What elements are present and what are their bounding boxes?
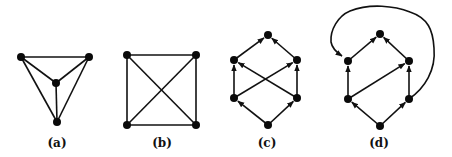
directed-edge: [238, 101, 268, 125]
vertex: [344, 57, 352, 65]
vertex: [192, 51, 200, 59]
vertex: [264, 121, 272, 129]
vertex: [376, 122, 384, 130]
vertex: [53, 118, 61, 126]
panel-label: (a): [47, 136, 66, 150]
vertex: [230, 56, 238, 64]
vertex: [293, 94, 301, 102]
directed-edge: [272, 38, 297, 60]
directed-edge: [268, 101, 293, 125]
vertex: [405, 95, 413, 103]
panel-label: (d): [369, 136, 389, 150]
panel-a: (a): [17, 53, 93, 150]
vertex: [405, 57, 413, 65]
directed-edge: [238, 63, 297, 98]
panel-b: (b): [123, 51, 200, 150]
vertex: [264, 31, 272, 39]
vertex: [376, 30, 384, 38]
directed-edge: [348, 37, 376, 61]
vertex: [192, 121, 200, 129]
vertex: [293, 56, 301, 64]
directed-edge: [352, 102, 380, 126]
edge: [57, 57, 89, 122]
panel-label: (c): [258, 136, 277, 150]
panel-label: (b): [152, 136, 172, 150]
directed-edge: [384, 37, 409, 61]
edge: [56, 57, 89, 83]
directed-edge: [348, 64, 405, 99]
vertex: [17, 53, 25, 61]
vertex: [85, 53, 93, 61]
directed-edge: [234, 63, 293, 98]
vertex: [123, 51, 131, 59]
curved-directed-edge: [331, 6, 434, 99]
directed-edge: [380, 102, 405, 126]
vertex: [123, 121, 131, 129]
figure: (a)(b)(c)(d): [0, 0, 452, 157]
edge: [21, 57, 56, 83]
edge: [21, 57, 57, 122]
vertex: [230, 94, 238, 102]
graph-diagram: (a)(b)(c)(d): [0, 0, 452, 157]
edge: [56, 83, 57, 122]
vertex: [52, 79, 60, 87]
directed-edge: [234, 38, 264, 60]
vertex: [344, 95, 352, 103]
panel-d: (d): [331, 6, 434, 150]
panel-c: (c): [230, 31, 301, 150]
